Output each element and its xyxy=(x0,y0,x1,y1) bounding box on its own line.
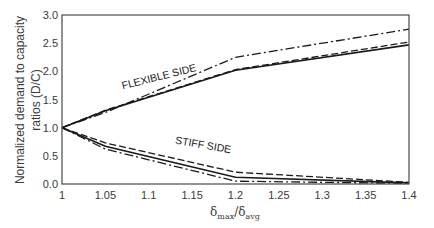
series-line-stiff-dashed xyxy=(62,128,409,183)
x-label-sub-avg: avg xyxy=(245,212,259,221)
y-tick-label: 2.0 xyxy=(43,65,58,77)
y-tick-label: 0.5 xyxy=(43,150,58,162)
series-line-stiff-dashdot xyxy=(62,128,409,184)
y-tick-label: 1.0 xyxy=(43,122,58,134)
x-tick-label: 1.4 xyxy=(401,189,416,201)
y-tick-label: 3.0 xyxy=(43,9,58,21)
y-tick-label: 2.5 xyxy=(43,37,58,49)
plot-frame xyxy=(62,15,409,184)
x-tick-label: 1.2 xyxy=(228,189,243,201)
x-label-sub-max: max xyxy=(217,212,234,221)
series-line-stiff-solid xyxy=(62,128,409,183)
x-axis-label: δmax/δavg xyxy=(210,205,260,221)
x-axis-ticks: 11.051.11.151.21.251.31.351.4 xyxy=(59,189,417,201)
x-tick-label: 1 xyxy=(59,189,65,201)
annotation-stiff-side: STIFF SIDE xyxy=(174,134,232,156)
y-tick-label: 1.5 xyxy=(43,94,58,106)
y-axis-label-line2: ratios (D/C) xyxy=(29,69,43,130)
y-tick-label: 0.0 xyxy=(43,178,58,190)
x-tick-label: 1.25 xyxy=(268,189,289,201)
annotation-flexible-side: FLEXIBLE SIDE xyxy=(120,61,197,91)
series-lines xyxy=(62,29,409,183)
x-tick-label: 1.15 xyxy=(181,189,202,201)
y-axis-label-line1: Normalized demand to capacity xyxy=(13,16,27,184)
series-line-flexible-dashdot xyxy=(62,29,409,128)
x-label-delta1: δ xyxy=(210,205,217,219)
x-tick-label: 1.3 xyxy=(315,189,330,201)
line-chart: 0.00.51.01.52.02.53.0 11.051.11.151.21.2… xyxy=(0,0,434,228)
x-tick-label: 1.35 xyxy=(355,189,376,201)
x-tick-label: 1.1 xyxy=(141,189,156,201)
y-axis-label: Normalized demand to capacity ratios (D/… xyxy=(13,16,43,184)
x-label-delta2: /δ xyxy=(234,205,245,219)
y-axis-ticks: 0.00.51.01.52.02.53.0 xyxy=(43,9,58,190)
x-tick-label: 1.05 xyxy=(95,189,116,201)
series-line-flexible-dashed xyxy=(62,42,409,128)
